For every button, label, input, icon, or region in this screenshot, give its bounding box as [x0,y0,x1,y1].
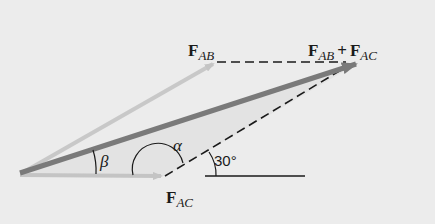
label-beta: β [100,152,108,172]
label-f-ab: FAB [188,41,214,61]
f-ac-vector [20,175,161,176]
label-f-ab-sub: AB [198,48,214,63]
label-resultant: FAB+FAC [308,41,377,61]
label-resultant-b-main: F [350,41,360,60]
vector-diagram [0,0,435,224]
label-resultant-b-sub: AC [360,48,377,63]
label-f-ac-main: F [166,188,176,207]
label-f-ac-sub: AC [176,195,193,210]
label-angle-30: 30° [214,152,237,169]
label-f-ab-main: F [188,41,198,60]
label-resultant-a-main: F [308,41,318,60]
label-alpha: α [173,136,182,156]
plus-sign: + [337,41,347,60]
label-resultant-a-sub: AB [318,48,334,63]
label-f-ac: FAC [166,188,193,208]
